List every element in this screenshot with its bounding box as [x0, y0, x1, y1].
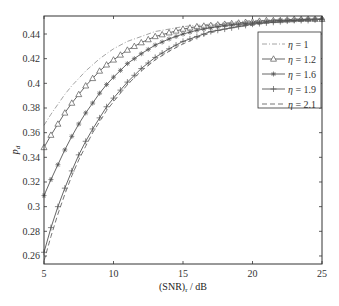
y-tick-label: 0.26: [23, 250, 41, 261]
x-tick-label: 5: [42, 268, 47, 279]
y-axis-label: pd: [9, 145, 22, 155]
y-tick-label: 0.3: [28, 201, 41, 212]
y-tick-label: 0.28: [23, 226, 41, 237]
x-tick-label: 10: [109, 268, 119, 279]
line-chart: 510152025 0.260.280.30.320.340.360.380.4…: [0, 0, 339, 306]
legend: η = 1η = 1.2η = 1.6η = 1.9η = 2.1: [258, 32, 321, 110]
x-tick-label: 20: [248, 268, 258, 279]
legend-label: η = 1.2: [288, 54, 316, 65]
y-tick-label: 0.36: [23, 127, 41, 138]
y-tick-label: 0.32: [23, 176, 41, 187]
x-axis-label: (SNR)r / dB: [159, 281, 207, 294]
x-tick-label: 15: [178, 268, 188, 279]
legend-label: η = 1: [288, 39, 309, 50]
x-tick-label: 25: [317, 268, 327, 279]
legend-label: η = 2.1: [288, 99, 316, 110]
legend-label: η = 1.9: [288, 84, 316, 95]
y-tick-label: 0.34: [23, 152, 41, 163]
y-tick-label: 0.44: [23, 29, 41, 40]
y-tick-label: 0.42: [23, 53, 41, 64]
y-tick-label: 0.4: [28, 78, 41, 89]
y-tick-label: 0.38: [23, 102, 41, 113]
legend-label: η = 1.6: [288, 69, 316, 80]
